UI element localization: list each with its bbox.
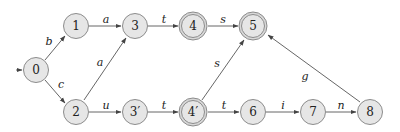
state-7: 7	[301, 100, 326, 125]
edge-4p-5	[202, 40, 244, 100]
edge-label-3p-4p: t	[162, 99, 167, 112]
state-8: 8	[358, 100, 383, 125]
state-3: 3	[123, 14, 148, 39]
edge-label-4p-6: t	[222, 99, 227, 112]
edge-label-4p-5: s	[214, 57, 220, 70]
state-label: 2	[72, 105, 80, 119]
edge-label-0-2: c	[58, 78, 64, 91]
state-label: 5	[249, 19, 257, 33]
state-label: 3′	[130, 105, 141, 119]
edge-label-4-5: s	[220, 13, 226, 26]
state-label: 7	[309, 105, 317, 119]
edge-label-1-3: a	[103, 13, 110, 26]
automaton-diagram: b c a a t s u t s t i n g 0 1 3 4 5 2	[0, 0, 400, 132]
edge-8-5	[268, 35, 360, 102]
edge-2-3	[84, 38, 126, 100]
state-1: 1	[64, 14, 89, 39]
state-4-prime-accepting: 4′	[179, 98, 207, 126]
edge-label-7-8: n	[337, 99, 344, 112]
state-label: 8	[366, 105, 374, 119]
state-6: 6	[241, 100, 266, 125]
state-label: 3	[131, 19, 139, 33]
state-0: 0	[24, 58, 49, 83]
state-label: 6	[249, 105, 257, 119]
state-5-accepting: 5	[239, 12, 267, 40]
edge-label-6-7: i	[281, 99, 285, 112]
edge-label-0-1: b	[45, 35, 52, 48]
edge-label-3-4: t	[162, 13, 167, 26]
edge-label-2-3p: u	[102, 99, 109, 112]
state-label: 0	[32, 63, 40, 77]
state-4-accepting: 4	[179, 12, 207, 40]
state-label: 4	[189, 19, 197, 33]
edge-label-8-5: g	[301, 70, 308, 83]
state-2: 2	[64, 100, 89, 125]
state-label: 4′	[188, 105, 199, 119]
state-3-prime: 3′	[123, 100, 148, 125]
state-label: 1	[72, 19, 80, 33]
edge-label-2-3: a	[97, 56, 104, 69]
